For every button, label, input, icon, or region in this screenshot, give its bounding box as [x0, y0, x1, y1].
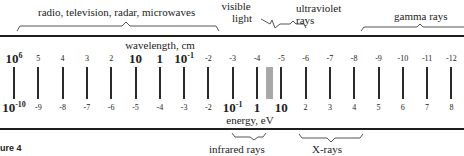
ultraviolet-label: ultraviolet rays [296, 3, 341, 26]
energy-tick-label: -4 [156, 104, 163, 112]
energy-tick-label: 6 [401, 104, 405, 112]
wavelength-tick-label: -6 [302, 55, 309, 63]
energy-tick-label: 8 [449, 104, 453, 112]
wavelength-tick-label: -8 [351, 55, 358, 63]
energy-tick-label: -8 [59, 104, 66, 112]
energy-tick-label: 4 [352, 104, 356, 112]
tick-mark [402, 67, 404, 99]
tick-mark [450, 67, 452, 99]
wavelength-tick-label: 4 [61, 55, 65, 63]
energy-tick-label: 2 [304, 104, 308, 112]
ultraviolet-label-line2: rays [296, 15, 341, 27]
wavelength-tick-label: -2 [205, 55, 212, 63]
wavelength-tick-label: -7 [327, 55, 334, 63]
energy-tick-label: -6 [108, 104, 115, 112]
energy-tick-label: 10 [275, 101, 288, 114]
infrared-bracket [232, 133, 266, 140]
wavelength-tick-label: -10 [397, 55, 408, 63]
tick-mark [86, 67, 88, 99]
energy-tick-label: 1 [254, 101, 261, 114]
wavelength-tick-label: 10 [129, 52, 142, 65]
tick-mark [353, 67, 355, 99]
wavelength-tick-label: 106 [6, 52, 23, 65]
gamma-rays-label: gamma rays [394, 11, 447, 23]
ultraviolet-label-line1: ultraviolet [296, 3, 341, 15]
tick-mark [426, 67, 428, 99]
energy-tick-label: 3 [328, 104, 332, 112]
wavelength-tick-label: -11 [422, 55, 432, 63]
energy-tick-label: -9 [35, 104, 42, 112]
tick-mark [329, 67, 331, 99]
energy-tick-label: 10-1 [223, 101, 243, 114]
x-rays-label: X-rays [312, 144, 342, 156]
energy-tick-label: 7 [425, 104, 429, 112]
visible-light-label: visible light [220, 1, 252, 24]
tick-mark [305, 67, 307, 99]
wavelength-tick-label: -3 [229, 55, 236, 63]
energy-tick-label: -5 [132, 104, 139, 112]
wavelength-tick-label: 5 [36, 55, 40, 63]
visible-light-marker [266, 67, 273, 99]
tick-mark [37, 67, 39, 99]
infrared-rays-label: infrared rays [209, 144, 265, 156]
energy-axis-title: energy, eV [226, 115, 273, 126]
tick-mark [378, 67, 380, 99]
radio-band-label: radio, television, radar, microwaves [38, 7, 195, 19]
tick-mark [159, 67, 161, 99]
wavelength-tick-label: -9 [375, 55, 382, 63]
tick-mark [280, 67, 282, 99]
tick-mark [183, 67, 185, 99]
wavelength-tick-label: 3 [85, 55, 89, 63]
wavelength-tick-label: -4 [254, 55, 261, 63]
wavelength-tick-label: -12 [446, 55, 457, 63]
tick-mark [62, 67, 64, 99]
radio-bracket [17, 22, 219, 31]
tick-mark [110, 67, 112, 99]
tick-mark [135, 67, 137, 99]
x-ray-bracket [299, 134, 363, 142]
wavelength-tick-label: 1 [157, 52, 164, 65]
energy-tick-label: 5 [377, 104, 381, 112]
tick-mark [207, 67, 209, 99]
visible-label-line2: light [220, 13, 252, 25]
energy-tick-label: -3 [181, 104, 188, 112]
wavelength-tick-label: 2 [109, 55, 113, 63]
visible-label-line1: visible [220, 1, 252, 13]
wavelength-tick-label: 10-1 [174, 52, 194, 65]
wavelength-axis-title: wavelength, cm [125, 40, 195, 51]
figure-caption: ure 4 [0, 143, 22, 153]
energy-tick-label: -2 [205, 104, 212, 112]
tick-mark [256, 67, 258, 99]
tick-mark [13, 67, 15, 99]
energy-tick-label: -7 [84, 104, 91, 112]
wavelength-tick-label: -5 [278, 55, 285, 63]
energy-tick-label: 10-10 [2, 101, 26, 114]
tick-mark [232, 67, 234, 99]
gamma-bracket [361, 24, 464, 31]
